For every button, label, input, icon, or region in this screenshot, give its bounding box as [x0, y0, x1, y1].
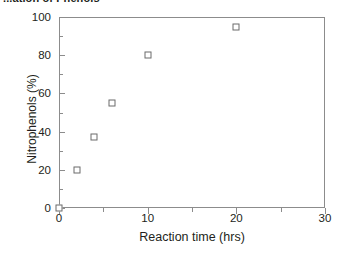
- y-axis-major-tick: [59, 132, 65, 133]
- y-axis-major-tick: [59, 17, 65, 18]
- x-axis-title: Reaction time (hrs): [59, 230, 325, 244]
- x-axis-minor-tick: [281, 208, 282, 212]
- data-point-marker: [109, 99, 116, 106]
- y-axis-tick-label: 100: [3, 11, 51, 23]
- x-axis-tick-label: 30: [305, 212, 343, 224]
- data-point-marker: [56, 205, 63, 212]
- x-axis-minor-tick: [103, 208, 104, 212]
- plot-frame: [59, 17, 325, 208]
- data-point-marker: [233, 23, 240, 30]
- x-axis-tick-label: 0: [39, 212, 79, 224]
- data-point-marker: [73, 166, 80, 173]
- x-axis-minor-tick: [192, 208, 193, 212]
- figure-caption-text: ...ation of Phenols: [3, 0, 100, 4]
- scatter-plot-figure: ...ation of Phenols 0204060801000102030 …: [0, 0, 343, 259]
- x-axis-tick-label: 20: [216, 212, 256, 224]
- y-axis-title: Nitrophenols (%): [25, 49, 39, 189]
- y-axis-major-tick: [59, 55, 65, 56]
- x-axis-tick-label: 10: [128, 212, 168, 224]
- y-axis-minor-tick: [59, 151, 63, 152]
- y-axis-minor-tick: [59, 74, 63, 75]
- y-axis-minor-tick: [59, 189, 63, 190]
- data-point-marker: [91, 134, 98, 141]
- y-axis-minor-tick: [59, 36, 63, 37]
- y-axis-minor-tick: [59, 113, 63, 114]
- data-point-marker: [144, 52, 151, 59]
- figure-caption-clipped: ...ation of Phenols: [0, 0, 343, 7]
- y-axis-major-tick: [59, 170, 65, 171]
- y-axis-major-tick: [59, 93, 65, 94]
